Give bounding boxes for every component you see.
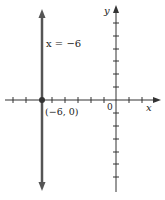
point-label: (−6, 0): [45, 106, 79, 117]
y-axis: [113, 5, 119, 192]
x-axis-label: x: [146, 102, 152, 113]
y-axis-arrow-icon: [113, 5, 119, 13]
line-equation-label: x = −6: [46, 38, 81, 49]
line-arrow-down-icon: [39, 182, 46, 191]
coordinate-plane: y x 0 x = −6 (−6, 0): [0, 0, 165, 200]
y-axis-label: y: [103, 5, 110, 16]
x-axis: [5, 97, 161, 103]
point-marker: [39, 97, 45, 103]
origin-label: 0: [107, 102, 113, 112]
x-axis-arrow-icon: [153, 97, 161, 103]
line-arrow-up-icon: [39, 9, 46, 18]
